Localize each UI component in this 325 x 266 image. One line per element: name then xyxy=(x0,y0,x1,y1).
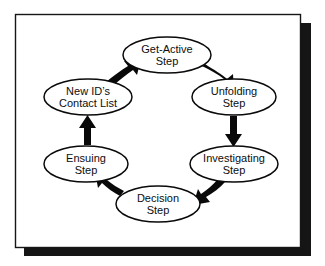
node-new-id-contact-list-label-line2: Contact List xyxy=(59,97,117,109)
node-get-active-label-line1: Get-Active xyxy=(141,43,192,55)
node-investigating[interactable]: Investigating Step xyxy=(190,146,278,182)
node-ensuing-label-line1: Ensuing xyxy=(66,152,106,164)
cycle-diagram-figure: Get-Active Step Unfolding Step Investiga… xyxy=(0,0,325,266)
node-unfolding-label-line2: Step xyxy=(223,97,246,109)
node-unfolding-label-line1: Unfolding xyxy=(211,85,257,97)
node-ensuing[interactable]: Ensuing Step xyxy=(44,146,128,182)
node-get-active-label-line2: Step xyxy=(156,55,179,67)
node-decision-label-line1: Decision xyxy=(137,192,179,204)
node-investigating-label-line1: Investigating xyxy=(203,152,265,164)
node-get-active[interactable]: Get-Active Step xyxy=(123,37,211,73)
node-ensuing-label-line2: Step xyxy=(75,164,98,176)
node-new-id-contact-list[interactable]: New ID’s Contact List xyxy=(44,79,132,115)
node-new-id-contact-list-label-line1: New ID’s xyxy=(66,85,110,97)
node-investigating-label-line2: Step xyxy=(223,164,246,176)
node-decision[interactable]: Decision Step xyxy=(116,186,200,222)
node-unfolding[interactable]: Unfolding Step xyxy=(192,79,276,115)
node-decision-label-line2: Step xyxy=(147,204,170,216)
